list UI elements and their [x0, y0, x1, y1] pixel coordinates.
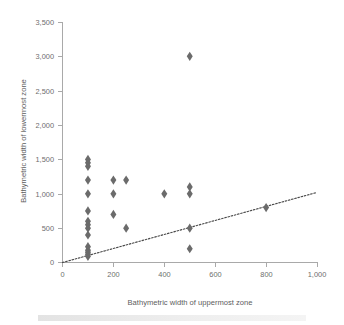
- x-tick-label-600: 600: [209, 270, 221, 279]
- y-tick-label-1500: 1,500: [36, 155, 55, 164]
- x-tick-label-400: 400: [158, 270, 170, 279]
- y-tick-label-500: 500: [42, 224, 54, 233]
- chart-canvas: 3,500 3,000 2,500 2,000 1,500 1,000 500 …: [0, 0, 344, 325]
- x-axis-title: Bathymetric width of uppermost zone: [128, 298, 253, 307]
- scatter-plot-figure: 3,500 3,000 2,500 2,000 1,500 1,000 500 …: [0, 0, 344, 325]
- x-tick-label-1000: 1,000: [308, 270, 327, 279]
- y-axis-title: Bathymetric width of lowermost zone: [19, 79, 28, 203]
- y-axis-ticks: [58, 23, 62, 263]
- x-tick-label-800: 800: [260, 270, 272, 279]
- y-tick-label-2000: 2,000: [36, 121, 55, 130]
- x-tick-label-200: 200: [107, 270, 119, 279]
- y-tick-label-3500: 3,500: [36, 18, 55, 27]
- y-tick-label-2500: 2,500: [36, 87, 55, 96]
- y-tick-label-3000: 3,000: [36, 52, 55, 61]
- x-tick-label-0: 0: [60, 270, 64, 279]
- y-tick-label-0: 0: [50, 258, 54, 267]
- footer-divider-bar: [38, 315, 306, 321]
- y-tick-label-1000: 1,000: [36, 190, 55, 199]
